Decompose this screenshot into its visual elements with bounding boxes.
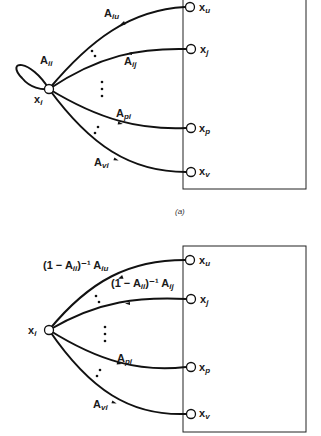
label-api: Api	[116, 107, 132, 121]
self-loop-edge	[16, 65, 49, 89]
node-xj	[187, 45, 196, 54]
node-xp	[187, 363, 196, 372]
node-xu	[186, 256, 195, 265]
node-xv	[187, 410, 196, 419]
node-xv	[187, 168, 196, 177]
arrow-icon	[113, 157, 119, 162]
panel-a: xi Aii Aiu Aij Api Avi xu xj xp xv (a)	[16, 0, 306, 216]
node-xi	[45, 85, 54, 94]
panel-b: xi (1 − Aii)⁻¹ Aiu (1 − Aii)⁻¹ Aij Api A…	[28, 246, 306, 432]
node-xj	[187, 295, 196, 304]
arrow-icon	[111, 400, 117, 405]
label-aii: Aii	[40, 54, 53, 68]
edge-ij	[49, 299, 186, 330]
label-avi: Avi	[94, 156, 109, 170]
label-avi: Avi	[93, 398, 108, 412]
label-api: Api	[117, 352, 133, 366]
edge-ij	[49, 49, 186, 89]
signal-flow-diagram: xi Aii Aiu Aij Api Avi xu xj xp xv (a)	[0, 0, 321, 436]
label-xi: xi	[28, 324, 37, 338]
label-xi: xi	[34, 93, 43, 107]
subgraph-box	[183, 0, 306, 189]
label-aij: Aij	[124, 55, 137, 69]
arrow-icon	[125, 302, 130, 305]
label-edge-iu: (1 − Aii)⁻¹ Aiu	[43, 259, 108, 273]
node-xi	[45, 326, 54, 335]
subgraph-box	[183, 246, 306, 432]
node-xu	[186, 3, 195, 12]
label-edge-ij: (1 − Aii)⁻¹ Aij	[111, 277, 174, 291]
caption-a: (a)	[175, 207, 185, 216]
node-xp	[187, 124, 196, 133]
label-aiu: Aiu	[104, 7, 119, 21]
